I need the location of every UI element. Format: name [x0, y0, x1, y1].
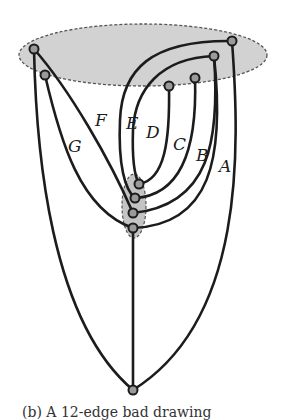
edge-C: [135, 78, 195, 198]
edge-label-A: A: [217, 156, 231, 176]
edge-label-C: C: [173, 134, 186, 154]
node-t5: [191, 74, 200, 83]
edge-label-F: F: [94, 110, 108, 130]
node-t1: [30, 45, 39, 54]
node-t3: [228, 37, 237, 46]
node-m3: [129, 209, 138, 218]
node-m4: [129, 224, 138, 233]
edge-label-E: E: [125, 113, 139, 133]
edge-label-B: B: [195, 145, 209, 165]
node-m1: [135, 180, 144, 189]
node-m2: [131, 194, 140, 203]
node-t2: [41, 71, 50, 80]
figure-caption: (b) A 12-edge bad drawing: [22, 404, 212, 420]
node-t4: [210, 52, 219, 61]
node-b1: [129, 386, 138, 395]
edge-A: [133, 41, 236, 390]
node-t6: [165, 82, 174, 91]
edge-outer-left: [34, 49, 133, 390]
edge-label-D: D: [145, 122, 160, 142]
edge-label-G: G: [68, 136, 82, 156]
